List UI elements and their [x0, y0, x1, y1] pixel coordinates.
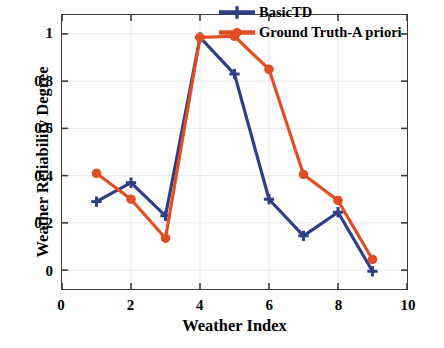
y-tick-0: 0 — [46, 262, 54, 279]
x-tick-6: 6 — [265, 297, 273, 314]
data-series-layer — [62, 15, 407, 289]
legend-label-ground-truth: Ground Truth-A priori — [259, 25, 402, 40]
x-tick-10: 10 — [401, 297, 416, 314]
legend: BasicTD Ground Truth-A priori — [218, 4, 402, 41]
series-ground-truth — [92, 31, 378, 264]
y-tick-0-8: 0.8 — [34, 72, 53, 89]
legend-label-basictd: BasicTD — [259, 5, 312, 20]
x-tick-8: 8 — [335, 297, 343, 314]
chart-figure: Weather Reliability Degree Weather Index… — [0, 0, 444, 348]
x-tick-2: 2 — [127, 297, 135, 314]
y-axis-title: Weather Reliability Degree — [33, 24, 53, 300]
legend-item-ground-truth[interactable]: Ground Truth-A priori — [218, 24, 402, 41]
series-basictd — [91, 32, 377, 276]
y-tick-0-6: 0.6 — [34, 120, 53, 137]
x-axis-title: Weather Index — [61, 316, 408, 336]
legend-swatch-line-circle — [218, 24, 256, 41]
y-tick-1: 1 — [46, 25, 54, 42]
x-tick-4: 4 — [196, 297, 204, 314]
plot-area — [61, 14, 408, 290]
y-tick-0-2: 0.2 — [34, 215, 53, 232]
x-tick-0: 0 — [57, 297, 65, 314]
y-tick-0-4: 0.4 — [34, 167, 53, 184]
legend-swatch-line-plus — [218, 4, 256, 21]
legend-item-basictd[interactable]: BasicTD — [218, 4, 402, 21]
